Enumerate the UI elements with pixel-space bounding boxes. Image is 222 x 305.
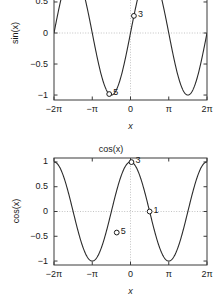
y-tick-label: 1 (14, 157, 48, 166)
x-tick-label: 2π (187, 270, 222, 279)
cos-plot-panel: cos(x) cos(x) x 31510.50−0.5−1−2π−π0π2π (0, 0, 222, 305)
data-point-label: 3 (135, 156, 140, 165)
x-tick-label: −2π (34, 270, 74, 279)
x-tick-label: π (149, 270, 189, 279)
y-tick-label: −0.5 (14, 232, 48, 241)
cos-x-axis-label: x (54, 286, 207, 296)
x-tick-label: −π (72, 270, 112, 279)
data-point-label: 1 (154, 206, 159, 215)
y-tick-label: −1 (14, 257, 48, 266)
y-tick-label: 0.5 (14, 182, 48, 191)
x-tick-label: 0 (111, 270, 151, 279)
data-point-label: 5 (121, 227, 126, 236)
figure-canvas: sin(x) x 350.50−0.5−1−2π−π0π2π cos(x) co… (0, 0, 222, 305)
y-tick-label: 0 (14, 207, 48, 216)
